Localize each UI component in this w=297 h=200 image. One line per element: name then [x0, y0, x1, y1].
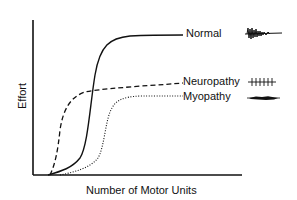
neuropathy-curve: [50, 83, 183, 175]
chart-canvas: [0, 0, 297, 200]
x-axis-label: Number of Motor Units: [86, 184, 197, 196]
myopathy-emg-pattern-icon: [247, 96, 280, 100]
neuropathy-emg-pattern-icon: [248, 78, 276, 86]
y-axis-label: Effort: [16, 76, 28, 116]
legend-neuropathy-label: Neuropathy: [183, 75, 240, 87]
legend-normal-label: Normal: [186, 27, 221, 39]
normal-emg-pattern-icon: [245, 28, 282, 39]
myopathy-curve: [60, 96, 183, 175]
legend-myopathy-label: Myopathy: [183, 90, 231, 102]
